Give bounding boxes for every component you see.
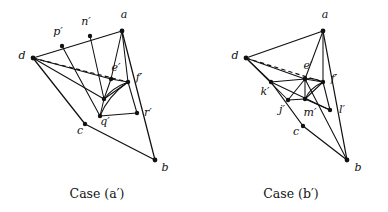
label-n-prime: n′ xyxy=(81,15,91,28)
edge-d-a-2 xyxy=(246,31,323,58)
vertex-a xyxy=(120,29,125,34)
vertex-f-prime-2 xyxy=(321,80,325,84)
edge-c-b xyxy=(85,124,155,160)
vertex-r-prime xyxy=(135,111,139,115)
figure-page: d p′ n′ a e′ f′ q′ c r′ b xyxy=(0,0,388,212)
label-f-prime: f′ xyxy=(135,71,143,84)
vertex-c xyxy=(83,122,87,126)
label-r-prime: r′ xyxy=(144,106,152,119)
label-c-2: c xyxy=(293,125,299,138)
label-d: d xyxy=(18,49,25,62)
panel-case-b-prime: d a e′ f′ k′ j′ m′ l′ c b xyxy=(231,8,361,174)
label-e-prime: e′ xyxy=(111,61,121,74)
edge-f-prime-l-prime xyxy=(323,82,330,110)
edge-d-m-prime xyxy=(33,58,104,99)
label-f-prime-2: f′ xyxy=(330,72,338,85)
vertex-e-prime-2 xyxy=(303,77,308,82)
edge-k-prime-e-prime xyxy=(271,79,305,82)
vertex-f-prime xyxy=(126,80,130,84)
geometry-figure-canvas: d p′ n′ a e′ f′ q′ c r′ b xyxy=(0,0,388,212)
label-c: c xyxy=(77,124,83,137)
label-l-prime: l′ xyxy=(339,103,346,116)
caption-case-b-prime: Case (b′) xyxy=(194,186,388,201)
vertex-b-2 xyxy=(345,158,350,163)
label-k-prime: k′ xyxy=(260,85,270,98)
label-e-prime-2: e′ xyxy=(303,59,313,72)
label-d-2: d xyxy=(231,49,238,62)
vertex-m-prime-2 xyxy=(303,97,307,101)
edge-a-b xyxy=(122,31,155,160)
edge-d-c xyxy=(33,58,85,124)
vertex-n-prime xyxy=(88,34,92,38)
vertex-l-prime xyxy=(328,108,332,112)
label-b: b xyxy=(161,161,168,174)
label-a: a xyxy=(121,8,128,21)
vertex-d xyxy=(31,56,36,61)
label-p-prime: p′ xyxy=(53,25,63,38)
vertex-d-2 xyxy=(244,56,249,61)
vertex-k-prime xyxy=(269,80,273,84)
label-q-prime: q′ xyxy=(100,115,110,128)
edge-e-prime-b xyxy=(305,79,347,160)
vertex-m-prime xyxy=(102,97,106,101)
edge-a-f-prime xyxy=(122,31,128,82)
edge-j-prime-m-prime xyxy=(288,99,305,100)
vertex-c-2 xyxy=(301,124,305,128)
edge-k-prime-c xyxy=(271,82,303,126)
vertex-e-prime xyxy=(109,77,113,81)
label-a-2: a xyxy=(322,8,329,21)
vertex-b xyxy=(153,158,158,163)
edge-d-a xyxy=(33,31,122,58)
label-b-2: b xyxy=(354,161,361,174)
vertex-a-2 xyxy=(321,29,326,34)
panel-case-a-prime: d p′ n′ a e′ f′ q′ c r′ b xyxy=(18,8,168,174)
edge-n-prime-m-prime xyxy=(90,36,104,99)
vertex-j-prime xyxy=(286,98,290,102)
vertex-p-prime xyxy=(60,44,64,48)
edge-c-b-2 xyxy=(303,126,347,160)
label-j-prime: j′ xyxy=(276,103,285,116)
label-m-prime-2: m′ xyxy=(304,106,317,119)
caption-case-a-prime: Case (a′) xyxy=(0,186,194,201)
